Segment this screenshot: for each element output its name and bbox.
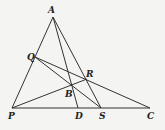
point-label-Q: Q xyxy=(27,52,35,62)
segment-QC xyxy=(35,57,150,108)
geometry-diagram: APCDSQRB xyxy=(0,0,165,130)
segment-AS xyxy=(53,17,101,108)
point-label-S: S xyxy=(99,111,106,121)
diagram-svg: APCDSQRB xyxy=(0,0,165,130)
point-label-C: C xyxy=(147,111,155,121)
point-label-A: A xyxy=(47,5,55,15)
segments xyxy=(12,17,150,108)
point-label-P: P xyxy=(7,111,15,121)
point-labels: APCDSQRB xyxy=(7,5,155,121)
point-label-D: D xyxy=(74,111,83,121)
segment-QS xyxy=(35,57,101,108)
point-label-B: B xyxy=(64,89,73,99)
point-label-R: R xyxy=(85,69,94,79)
